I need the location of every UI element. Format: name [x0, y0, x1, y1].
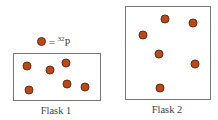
flask-1-label: Flask 1	[41, 105, 72, 116]
phosphorus-32-particle-icon	[161, 15, 170, 24]
phosphorus-32-particle-icon	[139, 31, 148, 40]
legend: = 32P	[37, 35, 70, 47]
phosphorus-32-particle-icon	[62, 59, 71, 68]
legend-text: = 32P	[49, 35, 70, 48]
flask-2-label: Flask 2	[152, 104, 183, 115]
phosphorus-32-particle-icon	[191, 60, 200, 69]
phosphorus-32-particle-icon	[63, 80, 72, 89]
phosphorus-32-particle-icon	[25, 86, 34, 95]
phosphorus-32-particle-icon	[23, 62, 32, 71]
phosphorus-32-marker-icon	[37, 37, 46, 46]
phosphorus-32-particle-icon	[189, 19, 198, 28]
phosphorus-32-particle-icon	[81, 83, 90, 92]
phosphorus-32-particle-icon	[46, 66, 55, 75]
phosphorus-32-particle-icon	[156, 84, 165, 93]
phosphorus-32-particle-icon	[155, 50, 164, 59]
